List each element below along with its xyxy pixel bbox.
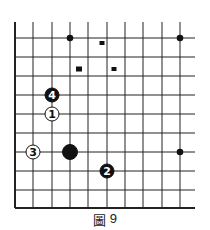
black-stone (63, 145, 78, 160)
square-marker-icon (112, 67, 117, 71)
white-stone-3: 3 (26, 145, 40, 159)
star-point-icon (177, 149, 184, 156)
white-stone-1: 1 (45, 107, 59, 121)
square-marker-icon (76, 67, 82, 72)
black-stone-4: 4 (45, 88, 59, 102)
svg-text:3: 3 (29, 146, 37, 159)
star-point-icon (67, 35, 74, 42)
caption-label: 圖 (93, 210, 106, 229)
svg-text:2: 2 (103, 165, 111, 178)
square-marker-icon (100, 41, 105, 45)
board-grid (15, 22, 195, 208)
go-board: 4132 (0, 0, 210, 212)
svg-text:4: 4 (48, 89, 56, 102)
svg-text:1: 1 (48, 108, 56, 121)
star-point-icon (177, 35, 184, 42)
square-markers (76, 41, 117, 72)
figure-caption: 圖 9 (0, 210, 210, 229)
caption-number: 9 (110, 211, 117, 226)
black-stone-2: 2 (100, 164, 114, 178)
